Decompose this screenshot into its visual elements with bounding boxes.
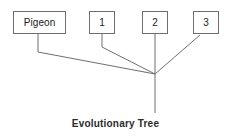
diagram-caption: Evolutionary Tree xyxy=(0,118,231,129)
evolutionary-tree-diagram: Pigeon 1 2 3 Evolutionary Tree xyxy=(0,0,231,139)
branch-line-pigeon xyxy=(38,34,155,74)
node-box-1: 1 xyxy=(89,11,115,34)
branch-line-3 xyxy=(155,35,200,74)
node-box-pigeon: Pigeon xyxy=(13,11,66,34)
node-label-pigeon: Pigeon xyxy=(24,18,56,28)
node-box-2: 2 xyxy=(142,11,168,34)
node-label-1: 1 xyxy=(99,18,105,28)
node-box-3: 3 xyxy=(193,11,219,34)
node-label-3: 3 xyxy=(203,18,209,28)
node-label-2: 2 xyxy=(152,18,158,28)
branch-line-1 xyxy=(102,34,155,74)
